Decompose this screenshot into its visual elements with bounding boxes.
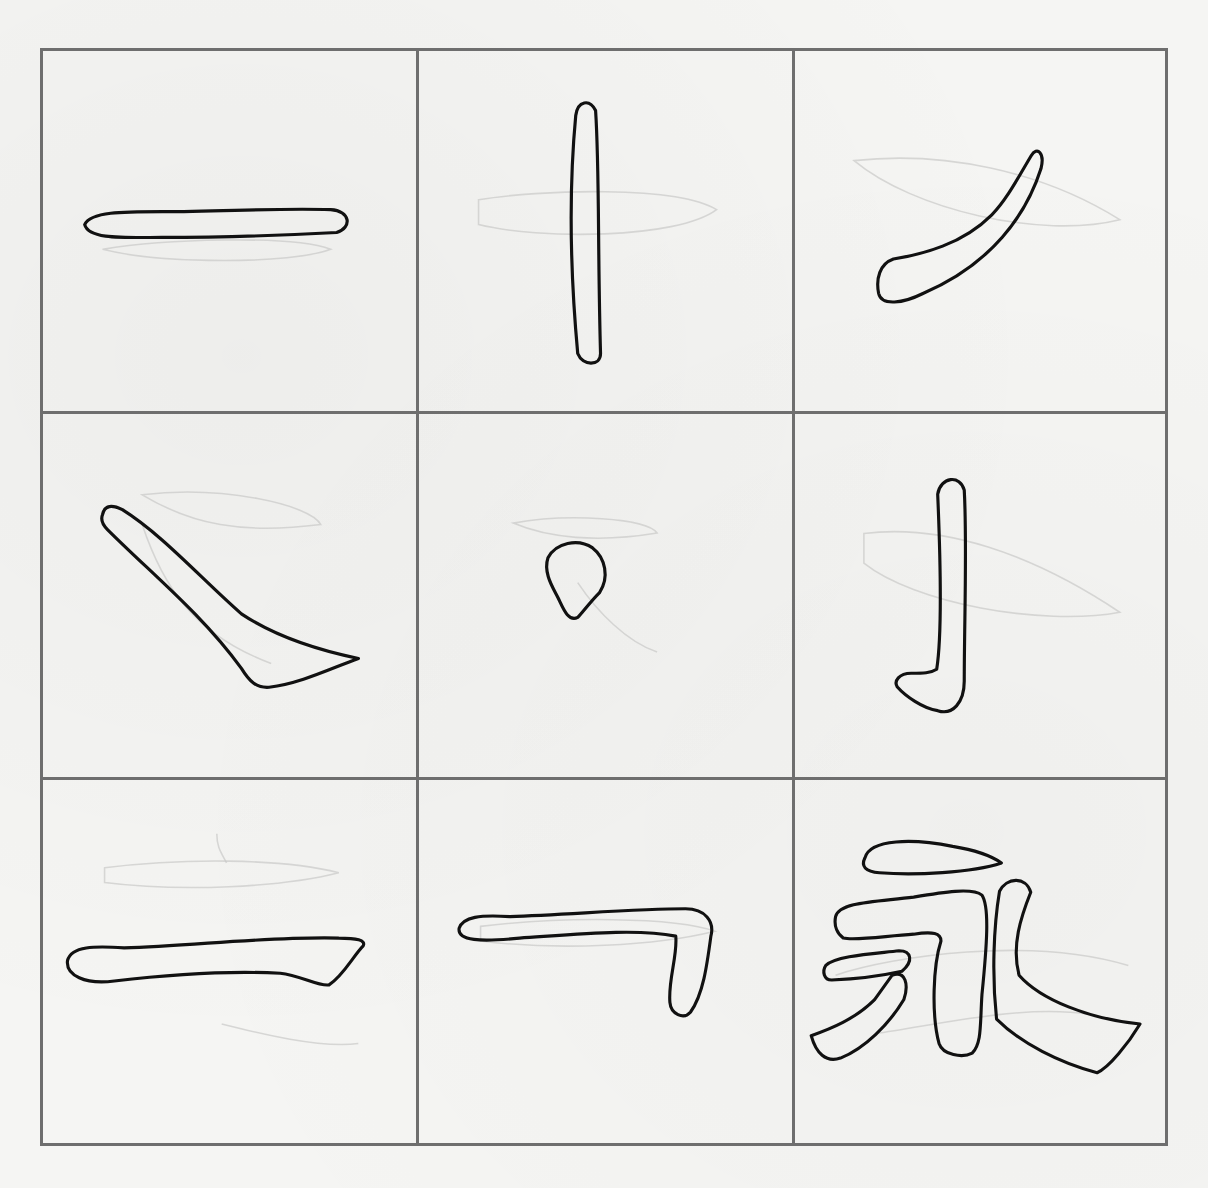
dot-stroke-outline [419,414,792,777]
grid-cell-yong-character: 永 [795,780,1165,1143]
horizontal-turn-stroke-outline [419,780,792,1143]
grid-cell-vertical-hook: 竖钩 [795,414,1165,780]
stroke-grid: 横 竖 撇 捺 [40,48,1168,1146]
grid-cell-left-falling: 撇 [795,51,1165,414]
grid-cell-horizontal: 横 [43,51,419,414]
right-falling-stroke-outline [43,414,416,777]
vertical-stroke-outline [419,51,792,411]
practice-sheet: 横 竖 撇 捺 [0,0,1208,1188]
yong-character-outline [795,780,1165,1143]
left-falling-stroke-outline [795,51,1165,411]
grid-cell-right-falling: 捺 [43,414,419,780]
grid-cell-vertical: 竖 [419,51,795,414]
horizontal-stroke-outline [43,51,416,411]
grid-cell-horizontal-turn: 横折 [419,780,795,1143]
grid-cell-long-horizontal: 横 [43,780,419,1143]
vertical-hook-stroke-outline [795,414,1165,777]
grid-cell-dot: 点 [419,414,795,780]
long-horizontal-stroke-outline [43,780,416,1143]
